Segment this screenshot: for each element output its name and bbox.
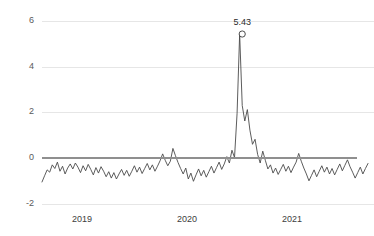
peak-marker-icon: [239, 31, 245, 37]
x-tick-label-2021: 2021: [282, 214, 302, 224]
peak-value-label: 5.43: [233, 17, 251, 27]
y-tick-label-0: 0: [29, 152, 34, 162]
y-tick-label-4: 4: [29, 61, 34, 71]
y-axis-tick-labels: 6 4 2 0 -2: [26, 15, 34, 208]
y-tick-label-6: 6: [29, 15, 34, 25]
line-chart: 6 4 2 0 -2 5.43 2019 2020 2021: [0, 0, 374, 236]
y-tick-label-2: 2: [29, 106, 34, 116]
x-tick-label-2019: 2019: [72, 214, 92, 224]
y-tick-label-minus-2: -2: [26, 198, 34, 208]
x-tick-label-2020: 2020: [177, 214, 197, 224]
chart-canvas: 6 4 2 0 -2 5.43 2019 2020 2021: [0, 0, 374, 236]
data-series-line: [42, 34, 368, 182]
x-axis-tick-labels: 2019 2020 2021: [72, 214, 302, 224]
gridlines: [42, 21, 374, 204]
